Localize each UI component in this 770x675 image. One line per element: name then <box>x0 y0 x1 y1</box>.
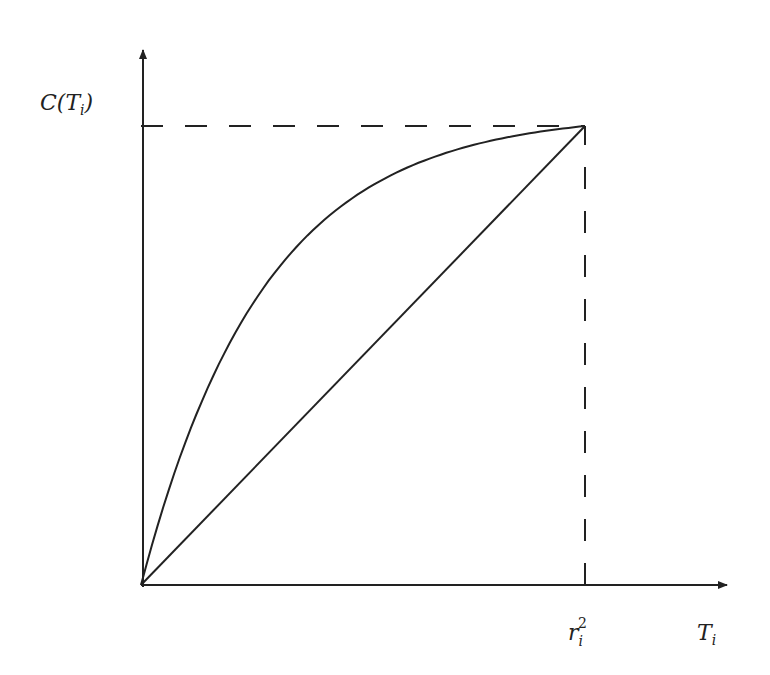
diagonal-line <box>141 126 585 585</box>
y-axis-label: C(Ti) <box>40 90 93 118</box>
diagram: C(Ti) Ti ri2 <box>0 0 770 675</box>
x-tick-label: ri2 <box>568 615 587 649</box>
x-axis-label: Ti <box>697 620 716 648</box>
